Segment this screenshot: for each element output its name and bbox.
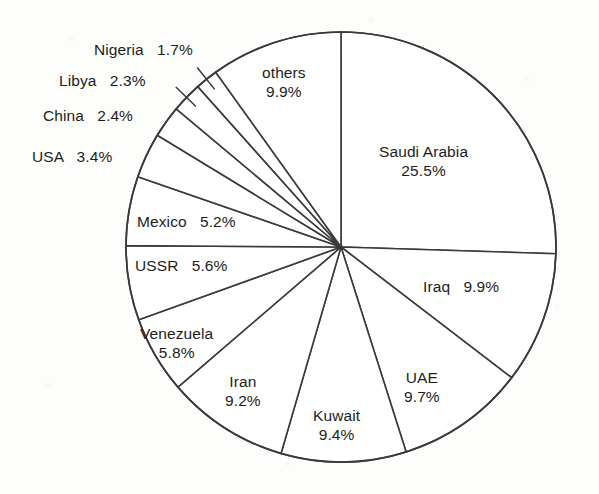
slice-label-venezuela: Venezuela 5.8% [140, 325, 213, 363]
slice-label-name: Saudi Arabia [379, 143, 468, 162]
slice-label-value: 9.2% [225, 392, 261, 411]
slice-label-name: UAE [404, 369, 440, 388]
slice-label-value: 2.3% [110, 72, 146, 89]
slice-label-name: Nigeria [94, 41, 144, 58]
slice-label-name: USA [32, 148, 63, 165]
slice-label-value: 2.4% [97, 107, 133, 124]
slice-label-kuwait: Kuwait 9.4% [313, 407, 360, 445]
slice-label-others: others 9.9% [262, 64, 306, 102]
slice-label-name: USSR [135, 257, 178, 274]
slice-label-name: Mexico [137, 213, 187, 230]
pie-chart-figure: Saudi Arabia 25.5% others 9.9% Iraq 9.9%… [0, 0, 599, 494]
slice-label-name: Iran [225, 373, 261, 392]
slice-label-china: China 2.4% [43, 107, 133, 126]
slice-label-iran: Iran 9.2% [225, 373, 261, 411]
slice-label-value: 5.6% [192, 257, 228, 274]
slice-label-name: Venezuela [140, 325, 213, 344]
slice-label-value: 5.2% [200, 213, 236, 230]
slice-label-nigeria: Nigeria 1.7% [94, 41, 193, 60]
pie-slices-group [126, 32, 556, 462]
slice-label-ussr: USSR 5.6% [135, 257, 227, 276]
slice-label-value: 25.5% [379, 162, 468, 181]
slice-label-name: China [43, 107, 84, 124]
slice-label-name: others [262, 64, 306, 83]
slice-label-value: 1.7% [157, 41, 193, 58]
slice-label-iraq: Iraq 9.9% [423, 278, 499, 297]
slice-label-saudi-arabia: Saudi Arabia 25.5% [379, 143, 468, 181]
slice-label-uae: UAE 9.7% [404, 369, 440, 407]
slice-label-mexico: Mexico 5.2% [137, 213, 236, 232]
slice-label-name: Kuwait [313, 407, 360, 426]
slice-label-usa: USA 3.4% [32, 148, 112, 167]
slice-label-value: 9.7% [404, 388, 440, 407]
slice-label-value: 9.4% [313, 426, 360, 445]
slice-label-name: Iraq [423, 278, 450, 295]
slice-label-value: 3.4% [77, 148, 113, 165]
slice-label-name: Libya [59, 72, 97, 89]
slice-label-value: 9.9% [463, 278, 499, 295]
slice-label-value: 9.9% [262, 83, 306, 102]
slice-label-value: 5.8% [140, 344, 213, 363]
slice-label-libya: Libya 2.3% [59, 72, 146, 91]
